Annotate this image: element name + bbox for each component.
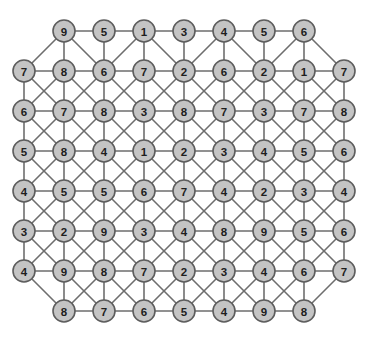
graph-node[interactable]: 8 (93, 260, 115, 282)
graph-node[interactable]: 9 (53, 260, 75, 282)
graph-node[interactable]: 2 (253, 60, 275, 82)
graph-canvas: 9513456786726217678387378584123456455674… (0, 0, 384, 343)
node-label: 4 (341, 186, 348, 198)
node-label: 3 (301, 186, 307, 198)
node-label: 6 (301, 266, 307, 278)
graph-node[interactable]: 4 (13, 180, 35, 202)
node-label: 9 (61, 26, 67, 38)
graph-node[interactable]: 4 (213, 20, 235, 42)
graph-node[interactable]: 2 (253, 180, 275, 202)
graph-node[interactable]: 1 (133, 140, 155, 162)
graph-node[interactable]: 7 (293, 100, 315, 122)
graph-node[interactable]: 9 (253, 300, 275, 322)
graph-node[interactable]: 7 (53, 100, 75, 122)
node-label: 2 (181, 146, 187, 158)
graph-node[interactable]: 8 (53, 300, 75, 322)
node-label: 9 (61, 266, 67, 278)
node-label: 3 (181, 26, 187, 38)
graph-node[interactable]: 7 (133, 260, 155, 282)
graph-node[interactable]: 7 (173, 180, 195, 202)
node-label: 9 (261, 226, 267, 238)
graph-node[interactable]: 7 (93, 300, 115, 322)
node-label: 9 (101, 226, 107, 238)
graph-node[interactable]: 3 (253, 100, 275, 122)
graph-node[interactable]: 5 (13, 140, 35, 162)
graph-node[interactable]: 5 (253, 20, 275, 42)
graph-node[interactable]: 2 (173, 140, 195, 162)
graph-node[interactable]: 8 (93, 100, 115, 122)
graph-node[interactable]: 6 (13, 100, 35, 122)
node-label: 2 (181, 66, 187, 78)
graph-node[interactable]: 3 (173, 20, 195, 42)
graph-node[interactable]: 1 (133, 20, 155, 42)
node-label: 7 (101, 306, 107, 318)
node-label: 2 (181, 266, 187, 278)
graph-node[interactable]: 3 (133, 100, 155, 122)
graph-figure: 9513456786726217678387378584123456455674… (0, 0, 384, 343)
graph-node[interactable]: 6 (133, 300, 155, 322)
graph-node[interactable]: 7 (333, 60, 355, 82)
graph-node[interactable]: 7 (333, 260, 355, 282)
node-label: 6 (341, 146, 347, 158)
graph-node[interactable]: 2 (173, 260, 195, 282)
graph-node[interactable]: 6 (93, 60, 115, 82)
graph-node[interactable]: 7 (13, 60, 35, 82)
node-label: 8 (221, 226, 228, 238)
graph-node[interactable]: 5 (93, 20, 115, 42)
graph-node[interactable]: 7 (133, 60, 155, 82)
graph-node[interactable]: 5 (53, 180, 75, 202)
graph-node[interactable]: 8 (53, 140, 75, 162)
node-label: 7 (141, 66, 147, 78)
graph-node[interactable]: 6 (213, 60, 235, 82)
graph-node[interactable]: 4 (93, 140, 115, 162)
graph-node[interactable]: 6 (293, 20, 315, 42)
graph-node[interactable]: 6 (293, 260, 315, 282)
graph-node[interactable]: 1 (293, 60, 315, 82)
node-label: 6 (341, 226, 347, 238)
graph-node[interactable]: 6 (333, 220, 355, 242)
graph-node[interactable]: 4 (13, 260, 35, 282)
graph-node[interactable]: 8 (53, 60, 75, 82)
node-label: 1 (301, 66, 308, 78)
node-label: 9 (261, 306, 267, 318)
graph-node[interactable]: 5 (93, 180, 115, 202)
node-label: 8 (101, 106, 108, 118)
node-label: 6 (301, 26, 307, 38)
node-label: 4 (261, 266, 268, 278)
node-label: 5 (21, 146, 28, 158)
graph-node[interactable]: 7 (213, 100, 235, 122)
graph-node[interactable]: 8 (173, 100, 195, 122)
graph-node[interactable]: 6 (333, 140, 355, 162)
graph-node[interactable]: 3 (213, 260, 235, 282)
graph-node[interactable]: 2 (53, 220, 75, 242)
graph-node[interactable]: 4 (253, 140, 275, 162)
graph-node[interactable]: 9 (253, 220, 275, 242)
graph-node[interactable]: 4 (173, 220, 195, 242)
graph-node[interactable]: 5 (293, 140, 315, 162)
graph-node[interactable]: 3 (293, 180, 315, 202)
node-label: 8 (301, 306, 308, 318)
graph-node[interactable]: 4 (253, 260, 275, 282)
graph-node[interactable]: 9 (53, 20, 75, 42)
node-label: 4 (181, 226, 188, 238)
graph-node[interactable]: 3 (13, 220, 35, 242)
graph-node[interactable]: 4 (213, 300, 235, 322)
node-label: 7 (61, 106, 67, 118)
graph-node[interactable]: 5 (173, 300, 195, 322)
graph-node[interactable]: 2 (173, 60, 195, 82)
node-label: 3 (21, 226, 27, 238)
graph-node[interactable]: 8 (333, 100, 355, 122)
graph-node[interactable]: 6 (133, 180, 155, 202)
graph-node[interactable]: 9 (93, 220, 115, 242)
node-label: 5 (261, 26, 268, 38)
node-label: 7 (141, 266, 147, 278)
graph-node[interactable]: 8 (213, 220, 235, 242)
graph-node[interactable]: 8 (293, 300, 315, 322)
graph-node[interactable]: 3 (133, 220, 155, 242)
graph-node[interactable]: 3 (213, 140, 235, 162)
graph-node[interactable]: 5 (293, 220, 315, 242)
graph-node[interactable]: 4 (213, 180, 235, 202)
node-label: 3 (221, 266, 227, 278)
node-label: 3 (141, 106, 147, 118)
graph-node[interactable]: 4 (333, 180, 355, 202)
